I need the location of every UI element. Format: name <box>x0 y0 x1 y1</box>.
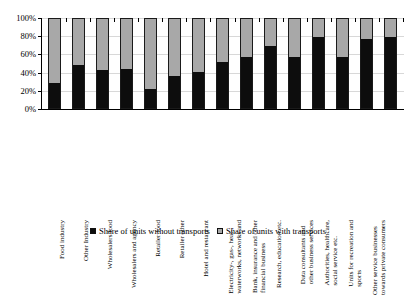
bar-segment-without-transports <box>145 89 156 108</box>
y-tick-label: 100% <box>16 14 36 23</box>
bar-segment-with-transports <box>264 18 277 109</box>
bar-segment-with-transports <box>312 18 325 109</box>
y-axis-tick <box>38 109 42 110</box>
bar-segment-without-transports <box>361 39 372 108</box>
y-tick-label: 0% <box>25 105 36 114</box>
x-axis-tick <box>403 18 404 22</box>
bar-column <box>72 18 85 109</box>
bar-segment-without-transports <box>49 83 60 108</box>
bar-segment-without-transports <box>193 72 204 108</box>
chart-legend: Share of units without transportsShare o… <box>0 226 416 236</box>
bar-segment-without-transports <box>217 62 228 108</box>
y-tick-label: 80% <box>20 32 36 41</box>
bar-segment-without-transports <box>73 65 84 108</box>
bar-column <box>48 18 61 109</box>
bar-column <box>288 18 301 109</box>
bar-segment-with-transports <box>216 18 229 109</box>
legend-swatch-icon <box>217 228 223 234</box>
bar-column <box>96 18 109 109</box>
bar-segment-with-transports <box>96 18 109 109</box>
bar-column <box>312 18 325 109</box>
bar-column <box>216 18 229 109</box>
bar-segment-without-transports <box>265 46 276 108</box>
legend-swatch-icon <box>90 228 96 234</box>
bar-segment-with-transports <box>48 18 61 109</box>
bar-segment-with-transports <box>336 18 349 109</box>
bar-segment-with-transports <box>144 18 157 109</box>
legend-item[interactable]: Share of units with transports <box>217 226 326 236</box>
y-axis: 100%80%60%40%20%0% <box>0 12 38 116</box>
bar-segment-without-transports <box>121 69 132 108</box>
bar-segment-without-transports <box>169 76 180 108</box>
bar-segment-with-transports <box>168 18 181 109</box>
bar-column <box>120 18 133 109</box>
y-tick-label: 40% <box>20 68 36 77</box>
legend-label: Share of units without transports <box>99 226 210 236</box>
bar-segment-with-transports <box>72 18 85 109</box>
bar-segment-without-transports <box>385 37 396 108</box>
bar-column <box>144 18 157 109</box>
bar-segment-with-transports <box>360 18 373 109</box>
bar-segment-without-transports <box>337 57 348 108</box>
bar-column <box>240 18 253 109</box>
bar-column <box>360 18 373 109</box>
legend-label: Share of units with transports <box>226 226 326 236</box>
bar-column <box>384 18 397 109</box>
y-tick-label: 20% <box>20 86 36 95</box>
bar-column <box>264 18 277 109</box>
bar-segment-without-transports <box>241 57 252 108</box>
legend-item[interactable]: Share of units without transports <box>90 226 210 236</box>
y-tick-label: 60% <box>20 50 36 59</box>
bar-segment-with-transports <box>120 18 133 109</box>
bar-column <box>336 18 349 109</box>
bar-segment-without-transports <box>97 70 108 108</box>
bar-segment-with-transports <box>192 18 205 109</box>
bar-segment-with-transports <box>288 18 301 109</box>
bars-layer <box>42 18 403 109</box>
x-axis-labels: Food industryOther IndustryWholesalers f… <box>42 111 403 223</box>
bar-segment-with-transports <box>384 18 397 109</box>
bar-segment-with-transports <box>240 18 253 109</box>
bar-column <box>168 18 181 109</box>
bar-segment-without-transports <box>313 37 324 108</box>
bar-segment-without-transports <box>289 57 300 108</box>
bar-column <box>192 18 205 109</box>
